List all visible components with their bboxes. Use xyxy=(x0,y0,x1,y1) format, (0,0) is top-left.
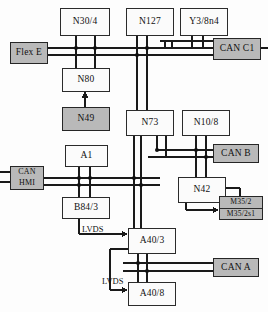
junction-dot xyxy=(135,53,139,57)
junction-dot xyxy=(88,176,92,180)
node-can-a[interactable]: CAN A xyxy=(213,258,259,277)
junction-dot xyxy=(145,269,149,273)
junction-dot xyxy=(204,155,208,159)
node-n80[interactable]: N80 xyxy=(62,68,110,92)
can-hmi-line-1: CAN xyxy=(11,167,43,178)
junction-dot xyxy=(145,46,149,50)
node-n10-8[interactable]: N10/8 xyxy=(182,110,230,136)
node-y3-8n4[interactable]: Y3/8n4 xyxy=(180,8,228,36)
node-m35[interactable]: M35/2 M35/2s1 xyxy=(219,196,263,220)
junction-dot xyxy=(93,46,97,50)
node-b84-3[interactable]: B84/3 xyxy=(62,197,110,219)
junction-dot xyxy=(194,148,198,152)
node-a40-8[interactable]: A40/8 xyxy=(128,282,176,306)
junction-dot xyxy=(74,46,78,50)
m35-label-bottom: M35/2s1 xyxy=(220,209,262,220)
node-flex-e[interactable]: Flex E xyxy=(10,42,48,64)
node-n73[interactable]: N73 xyxy=(126,110,174,136)
link-label-lvds-b84-a40-3: LVDS xyxy=(82,224,103,234)
node-n127[interactable]: N127 xyxy=(126,8,174,36)
diagram-canvas: N30/4 N127 Y3/8n4 Flex E CAN C1 N80 N49 … xyxy=(0,0,268,312)
node-can-c1[interactable]: CAN C1 xyxy=(213,38,261,60)
m35-label-top: M35/2 xyxy=(220,197,262,209)
can-hmi-line-2: HMI xyxy=(11,178,43,189)
junction-dot xyxy=(136,261,140,265)
junction-dot xyxy=(139,183,143,187)
junction-dot xyxy=(77,183,81,187)
link-label-lvds-a40-3-a40-8: LVDS xyxy=(102,276,123,286)
node-a1[interactable]: A1 xyxy=(65,145,108,167)
junction-dot xyxy=(155,148,159,152)
node-can-hmi[interactable]: CAN HMI xyxy=(10,166,44,190)
junction-dot xyxy=(132,176,136,180)
node-can-b[interactable]: CAN B xyxy=(213,144,259,163)
node-n49[interactable]: N49 xyxy=(62,107,110,131)
node-n30-4[interactable]: N30/4 xyxy=(60,8,110,36)
junction-dot xyxy=(77,176,81,180)
node-a40-3[interactable]: A40/3 xyxy=(128,228,176,254)
